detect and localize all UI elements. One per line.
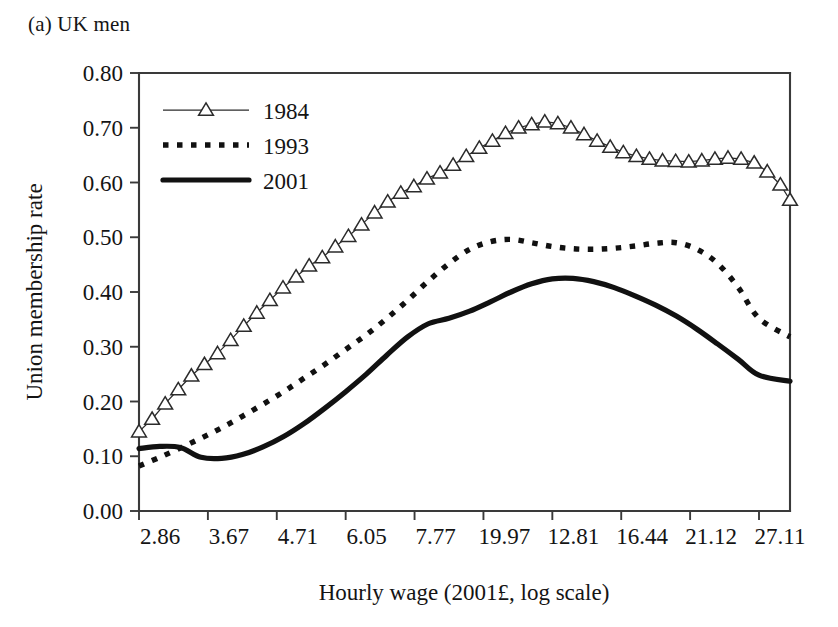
plot-frame [139,73,790,511]
x-tick-label: 6.05 [347,524,387,549]
data-point-marker-1984 [564,121,579,133]
x-tick-label: 16.44 [616,524,668,549]
y-axis-title: Union membership rate [22,183,47,400]
data-point-marker-1984 [302,259,317,271]
y-tick-label: 0.80 [83,61,123,86]
legend-marker-1984 [199,103,214,115]
data-point-marker-1984 [721,151,736,163]
data-point-marker-1984 [783,193,798,205]
legend-label-2001: 2001 [263,169,309,194]
x-tick-label: 21.12 [685,524,737,549]
x-tick-label: 2.86 [140,524,180,549]
y-tick-label: 0.50 [83,225,123,250]
data-point-marker-1984 [472,141,487,153]
y-tick-label: 0.00 [83,499,123,524]
data-point-marker-1984 [747,156,762,168]
y-tick-label: 0.40 [83,280,123,305]
legend-item-1993: 1993 [163,134,309,159]
x-tick-label: 19.97 [479,524,531,549]
x-tick-label: 27.11 [755,524,806,549]
legend-label-1984: 1984 [263,99,310,124]
legend-label-1993: 1993 [263,134,309,159]
legend-item-1984: 1984 [163,99,310,124]
data-series-layer [132,115,798,466]
union-membership-line-chart: 0.000.100.200.300.400.500.600.700.80 2.8… [0,0,838,627]
series-2001 [139,278,790,459]
data-point-marker-1984 [760,165,775,177]
x-tick-label: 3.67 [209,524,249,549]
series-line-2001 [139,278,790,459]
data-point-marker-1984 [406,179,421,191]
y-tick-label: 0.30 [83,335,123,360]
series-line-1993 [139,239,790,466]
data-point-marker-1984 [616,145,631,157]
y-axis-tick-labels: 0.000.100.200.300.400.500.600.700.80 [83,61,123,524]
figure-panel: (a) UK men 0.000.100.200.300.400.500.600… [0,0,838,627]
x-axis-ticks [139,511,759,520]
series-line-1984 [139,122,790,432]
chart-legend: 198419932001 [163,99,310,194]
y-tick-label: 0.10 [83,444,123,469]
data-point-marker-1984 [485,134,500,146]
data-point-marker-1984 [537,115,552,127]
data-point-marker-1984 [433,166,448,178]
data-point-marker-1984 [629,149,644,161]
series-1993 [139,239,790,466]
series-1984 [132,115,798,437]
x-tick-label: 12.81 [547,524,599,549]
y-tick-label: 0.20 [83,390,123,415]
x-tick-label: 7.77 [415,524,455,549]
y-tick-label: 0.70 [83,116,123,141]
data-point-marker-1984 [498,126,513,138]
legend-item-2001: 2001 [163,169,309,194]
data-point-marker-1984 [446,158,461,170]
x-axis-tick-labels: 2.863.674.716.057.7719.9712.8116.4421.12… [140,524,806,549]
data-point-marker-1984 [668,154,683,166]
x-axis-title: Hourly wage (2001£, log scale) [319,580,610,605]
data-point-marker-1984 [380,195,395,207]
x-tick-label: 4.71 [278,524,318,549]
y-tick-label: 0.60 [83,171,123,196]
y-axis-ticks [130,73,139,511]
data-point-marker-1984 [459,149,474,161]
